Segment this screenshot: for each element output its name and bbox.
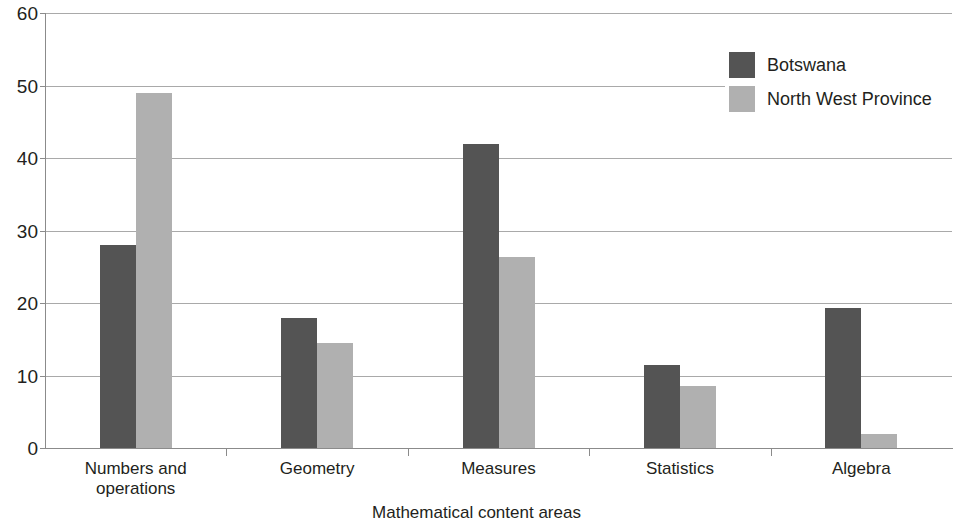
y-axis-tick-label: 10 bbox=[0, 367, 38, 386]
x-axis-category-label-line: Measures bbox=[409, 459, 589, 479]
y-axis-tick-label: 60 bbox=[0, 4, 38, 23]
y-axis-tick-label: 40 bbox=[0, 149, 38, 168]
legend-item-north-west-province[interactable]: North West Province bbox=[729, 82, 932, 116]
bar bbox=[100, 245, 136, 448]
legend-label: North West Province bbox=[767, 89, 932, 110]
y-axis-tick-label: 20 bbox=[0, 294, 38, 313]
x-axis-category-label-line: Statistics bbox=[590, 459, 770, 479]
bar bbox=[861, 434, 897, 449]
legend-swatch-icon bbox=[729, 52, 755, 78]
x-axis-tick-mark bbox=[589, 449, 590, 456]
x-axis-category-label: Geometry bbox=[227, 459, 407, 479]
x-axis-category-label: Measures bbox=[409, 459, 589, 479]
x-axis-category-label: Algebra bbox=[771, 459, 951, 479]
y-axis-tick-label: 50 bbox=[0, 77, 38, 96]
x-axis-tick-mark bbox=[226, 449, 227, 456]
x-axis-category-label-line: operations bbox=[46, 479, 226, 499]
x-axis-tick-mark bbox=[408, 449, 409, 456]
bar bbox=[680, 386, 716, 448]
bar bbox=[281, 318, 317, 449]
y-axis-tick-label: 0 bbox=[0, 439, 38, 458]
x-axis-line bbox=[45, 448, 953, 449]
bar bbox=[136, 93, 172, 448]
x-axis-category-label-line: Geometry bbox=[227, 459, 407, 479]
x-axis-category-label: Numbers andoperations bbox=[46, 459, 226, 499]
bar bbox=[317, 343, 353, 448]
x-axis-category-label-line: Algebra bbox=[771, 459, 951, 479]
y-axis-tick-label: 30 bbox=[0, 222, 38, 241]
legend-item-botswana[interactable]: Botswana bbox=[729, 48, 932, 82]
bar-chart: 0102030405060 Numbers andoperationsGeome… bbox=[0, 0, 953, 529]
legend-label: Botswana bbox=[767, 55, 846, 76]
x-axis-title: Mathematical content areas bbox=[0, 503, 953, 523]
x-axis-category-label: Statistics bbox=[590, 459, 770, 479]
bar bbox=[499, 257, 535, 448]
bar bbox=[463, 144, 499, 449]
legend: Botswana North West Province bbox=[727, 44, 934, 122]
bar bbox=[825, 308, 861, 448]
legend-swatch-icon bbox=[729, 86, 755, 112]
bar bbox=[644, 365, 680, 448]
x-axis-category-label-line: Numbers and bbox=[46, 459, 226, 479]
x-axis-tick-mark bbox=[771, 449, 772, 456]
